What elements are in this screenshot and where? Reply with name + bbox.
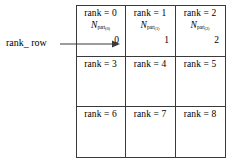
cell-content: rank = 3 xyxy=(77,57,125,106)
npart-label: Npart(0) xyxy=(80,19,121,34)
rank-label: rank = 1 xyxy=(129,8,171,19)
cell-content: rank = 7 xyxy=(126,107,175,157)
grid-cell-rank-4[interactable]: rank = 4 xyxy=(126,57,176,107)
rank-row-annotation-label: rank_ row xyxy=(6,36,47,50)
npart-subscript: part xyxy=(97,24,105,30)
cell-content: rank = 8 xyxy=(176,107,225,157)
grid-cell-rank-1[interactable]: rank = 1 Npart(1) 1 xyxy=(126,6,176,57)
rank-label: rank = 5 xyxy=(179,59,221,70)
grid-cell-rank-0[interactable]: rank = 0 Npart(0) 0 xyxy=(77,6,126,57)
npart-index: (2) xyxy=(205,25,210,30)
grid-cell-rank-5[interactable]: rank = 5 xyxy=(176,57,226,107)
grid-cell-rank-6[interactable]: rank = 6 xyxy=(77,107,126,158)
cell-content: rank = 4 xyxy=(126,57,175,106)
table-row: rank = 6 rank = 7 rank = 8 xyxy=(77,107,226,158)
rank-row-index-value: 2 xyxy=(179,34,221,46)
grid-cell-rank-8[interactable]: rank = 8 xyxy=(176,107,226,158)
rank-label: rank = 8 xyxy=(179,109,221,120)
table-row: rank = 0 Npart(0) 0 rank = 1 Npart(1) 1 … xyxy=(77,6,226,57)
rank-label: rank = 6 xyxy=(80,109,121,120)
rank-label: rank = 7 xyxy=(129,109,171,120)
cell-content: rank = 6 xyxy=(77,107,125,157)
cell-content: rank = 1 Npart(1) 1 xyxy=(126,6,175,56)
npart-subscript: part xyxy=(197,24,205,30)
npart-index: (1) xyxy=(155,25,160,30)
table-row: rank = 3 rank = 4 rank = 5 xyxy=(77,57,226,107)
grid-cell-rank-3[interactable]: rank = 3 xyxy=(77,57,126,107)
cell-content: rank = 0 Npart(0) 0 xyxy=(77,6,125,56)
rank-grid-table: rank = 0 Npart(0) 0 rank = 1 Npart(1) 1 … xyxy=(76,5,226,158)
rank-grid-figure: rank_ row rank = 0 Npart(0) 0 rank = 1 N… xyxy=(0,0,232,166)
rank-label: rank = 0 xyxy=(80,8,121,19)
rank-row-index-value: 0 xyxy=(80,34,121,46)
cell-content: rank = 2 Npart(2) 2 xyxy=(176,6,225,56)
npart-index: (0) xyxy=(105,25,110,30)
grid-cell-rank-2[interactable]: rank = 2 Npart(2) 2 xyxy=(176,6,226,57)
grid-cell-rank-7[interactable]: rank = 7 xyxy=(126,107,176,158)
rank-row-index-value: 1 xyxy=(129,34,171,46)
rank-label: rank = 4 xyxy=(129,59,171,70)
rank-label: rank = 3 xyxy=(80,59,121,70)
npart-subscript: part xyxy=(147,24,155,30)
cell-content: rank = 5 xyxy=(176,57,225,106)
npart-label: Npart(2) xyxy=(179,19,221,34)
npart-label: Npart(1) xyxy=(129,19,171,34)
rank-label: rank = 2 xyxy=(179,8,221,19)
